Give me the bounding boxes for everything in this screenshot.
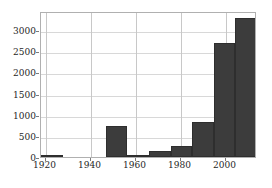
y-tick-mark-500 — [36, 137, 39, 138]
gridline-x-1960 — [136, 13, 137, 157]
y-tick-mark-1500 — [36, 95, 39, 96]
y-tick-mark-1000 — [36, 116, 39, 117]
gridline-x-1940 — [91, 13, 92, 157]
y-tick-mark-0 — [36, 158, 39, 159]
gridline-y-3000 — [41, 32, 255, 33]
x-tick-mark-1980 — [180, 158, 181, 161]
bar-1985–1995 — [192, 122, 214, 157]
y-tick-label-1000: 1000 — [13, 112, 36, 121]
gridline-x-1920 — [46, 13, 47, 157]
y-tick-label-2000: 2000 — [13, 69, 36, 78]
y-tick-label-1500: 1500 — [13, 91, 36, 100]
gridline-x-1980 — [181, 13, 182, 157]
bar-1966–1976 — [149, 151, 171, 157]
x-tick-label-2000: 2000 — [213, 161, 236, 170]
x-tick-label-1920: 1920 — [33, 161, 56, 170]
y-tick-mark-3000 — [36, 31, 39, 32]
x-tick-label-1940: 1940 — [78, 161, 101, 170]
x-tick-label-1960: 1960 — [123, 161, 146, 170]
x-tick-mark-1920 — [45, 158, 46, 161]
bar-1995–2004 — [214, 43, 236, 157]
bar-1947–1956 — [106, 126, 128, 157]
x-tick-mark-2000 — [225, 158, 226, 161]
histogram-figure: 050010001500200025003000 192019401960198… — [0, 0, 272, 188]
bar-1918–1928 — [41, 155, 63, 157]
y-tick-label-2500: 2500 — [13, 48, 36, 57]
bar-2004–2014 — [235, 18, 256, 157]
bar-1976–1985 — [171, 146, 193, 157]
bar-1956–1966 — [127, 155, 149, 157]
y-axis-tick-labels: 050010001500200025003000 — [0, 0, 36, 188]
y-tick-label-3000: 3000 — [13, 27, 36, 36]
y-tick-mark-2000 — [36, 73, 39, 74]
x-tick-mark-1960 — [135, 158, 136, 161]
y-tick-label-500: 500 — [19, 133, 36, 142]
plot-area — [40, 12, 256, 158]
x-tick-label-1980: 1980 — [168, 161, 191, 170]
y-tick-mark-2500 — [36, 52, 39, 53]
x-tick-mark-1940 — [90, 158, 91, 161]
